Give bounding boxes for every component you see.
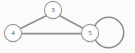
node-5-circle[interactable] bbox=[81, 24, 98, 41]
graph-canvas: 3 4 5 bbox=[0, 0, 135, 53]
node-5[interactable]: 5 bbox=[81, 24, 98, 41]
edge-3-5 bbox=[60, 16, 83, 29]
node-3[interactable]: 3 bbox=[44, 1, 61, 18]
node-group: 3 4 5 bbox=[4, 1, 98, 41]
node-4[interactable]: 4 bbox=[4, 24, 21, 41]
node-3-circle[interactable] bbox=[44, 1, 61, 18]
edge-4-3 bbox=[21, 16, 46, 29]
graph-figure: 3 4 5 bbox=[0, 0, 135, 53]
node-4-circle[interactable] bbox=[4, 24, 21, 41]
